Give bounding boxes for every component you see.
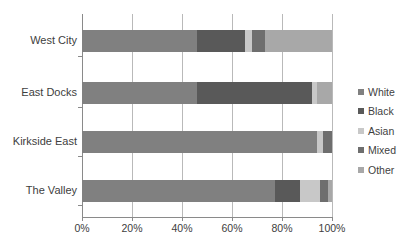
x-tick [332, 217, 333, 221]
y-tick [78, 56, 82, 57]
legend-label: Asian [368, 125, 394, 137]
category-label: East Docks [0, 86, 77, 98]
bar-segment-asian [245, 30, 253, 52]
bar-segment-black [197, 82, 312, 104]
x-tick [282, 217, 283, 221]
bar-segment-asian [300, 180, 320, 202]
y-tick [78, 107, 82, 108]
x-tick-label: 40% [160, 222, 204, 234]
bar-segment-other [328, 180, 332, 202]
x-tick [132, 217, 133, 221]
bar-segment-white [82, 131, 317, 153]
bar-the-valley [82, 180, 332, 202]
y-tick [78, 156, 82, 157]
bar-segment-black [275, 180, 300, 202]
legend-label: Mixed [368, 144, 396, 156]
legend-swatch-icon [358, 147, 364, 153]
bar-segment-mixed [320, 180, 329, 202]
category-label: West City [0, 34, 77, 46]
bar-kirkside-east [82, 131, 332, 153]
bar-segment-white [82, 30, 197, 52]
legend-label: Other [368, 164, 394, 176]
bar-east-docks [82, 82, 332, 104]
x-tick-label: 80% [260, 222, 304, 234]
legend-item-asian[interactable]: Asian [358, 121, 416, 141]
chart-legend: WhiteBlackAsianMixedOther [358, 82, 416, 180]
legend-swatch-icon [358, 128, 364, 134]
legend-swatch-icon [358, 89, 364, 95]
y-tick [78, 205, 82, 206]
bar-segment-other [317, 82, 332, 104]
x-tick-label: 60% [210, 222, 254, 234]
x-tick-label: 0% [60, 222, 104, 234]
bar-segment-other [265, 30, 333, 52]
bar-segment-mixed [323, 131, 332, 153]
legend-swatch-icon [358, 167, 364, 173]
chart-title [8, 0, 408, 5]
x-axis-line [82, 217, 332, 218]
legend-item-mixed[interactable]: Mixed [358, 141, 416, 161]
legend-item-other[interactable]: Other [358, 160, 416, 180]
x-tick [182, 217, 183, 221]
bar-segment-white [82, 82, 197, 104]
x-tick-label: 20% [110, 222, 154, 234]
bar-segment-white [82, 180, 275, 202]
legend-item-black[interactable]: Black [358, 102, 416, 122]
legend-label: White [368, 86, 395, 98]
x-tick-label: 100% [310, 222, 354, 234]
bar-segment-black [197, 30, 245, 52]
bar-segment-mixed [252, 30, 265, 52]
gridline [332, 14, 333, 217]
legend-label: Black [368, 105, 394, 117]
x-tick [232, 217, 233, 221]
category-label: Kirkside East [0, 135, 77, 147]
bar-west-city [82, 30, 332, 52]
legend-swatch-icon [358, 108, 364, 114]
x-tick [82, 217, 83, 221]
stacked-bar-chart: West CityEast DocksKirkside EastThe Vall… [0, 0, 417, 252]
category-label: The Valley [0, 184, 77, 196]
legend-item-white[interactable]: White [358, 82, 416, 102]
